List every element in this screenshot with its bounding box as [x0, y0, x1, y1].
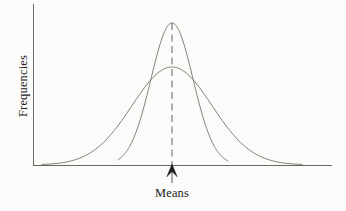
y-axis-label: Frequencies — [14, 26, 32, 146]
x-axis-label: Means — [122, 186, 222, 201]
figure-root: Frequencies Means — [0, 0, 346, 211]
plot-background — [0, 0, 346, 211]
distribution-plot — [0, 0, 346, 211]
